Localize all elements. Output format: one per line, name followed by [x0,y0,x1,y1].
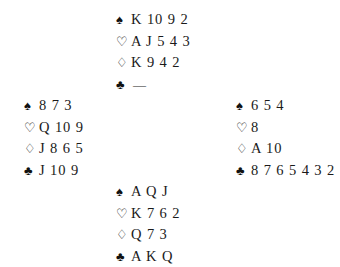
south-clubs-line: ♣ A K Q [116,246,180,267]
east-hearts-cards: 8 [249,117,259,139]
north-diamonds-cards: K 9 4 2 [129,52,180,74]
south-hearts-line: ♡ K 7 6 2 [116,203,180,225]
east-diamonds-line: ♢ A 10 [236,138,335,160]
south-spades-cards: A Q J [129,181,169,203]
club-icon: ♣ [236,160,249,182]
diamond-icon: ♢ [116,224,129,246]
west-spades-cards: 8 7 3 [37,95,73,117]
east-spades-line: ♠ 6 5 4 [236,95,335,117]
south-clubs-cards: A K Q [129,246,173,267]
club-icon: ♣ [116,246,129,267]
hand-south: ♠ A Q J ♡ K 7 6 2 ♢ Q 7 3 ♣ A K Q [116,181,180,267]
north-spades-cards: K 10 9 2 [129,9,189,31]
north-hearts-cards: A J 5 4 3 [129,31,191,53]
north-diamonds-line: ♢ K 9 4 2 [116,52,191,74]
hand-west: ♠ 8 7 3 ♡ Q 10 9 ♢ J 8 6 5 ♣ J 10 9 [24,95,84,181]
east-hearts-line: ♡ 8 [236,117,335,139]
diamond-icon: ♢ [116,52,129,74]
west-spades-line: ♠ 8 7 3 [24,95,84,117]
club-icon: ♣ [24,160,37,182]
east-clubs-line: ♣ 8 7 6 5 4 3 2 [236,160,335,182]
west-hearts-cards: Q 10 9 [37,117,84,139]
north-spades-line: ♠ K 10 9 2 [116,9,191,31]
diamond-icon: ♢ [24,138,37,160]
east-spades-cards: 6 5 4 [249,95,285,117]
west-diamonds-cards: J 8 6 5 [37,138,84,160]
west-clubs-cards: J 10 9 [37,160,79,182]
west-clubs-line: ♣ J 10 9 [24,160,84,182]
south-hearts-cards: K 7 6 2 [129,203,180,225]
heart-icon: ♡ [24,117,37,139]
south-diamonds-line: ♢ Q 7 3 [116,224,180,246]
heart-icon: ♡ [116,31,129,53]
east-diamonds-cards: A 10 [249,138,282,160]
hand-north: ♠ K 10 9 2 ♡ A J 5 4 3 ♢ K 9 4 2 ♣ — [116,9,191,95]
west-hearts-line: ♡ Q 10 9 [24,117,84,139]
north-clubs-line: ♣ — [116,74,191,96]
spade-icon: ♠ [116,181,129,203]
club-icon: ♣ [116,74,129,96]
spade-icon: ♠ [116,9,129,31]
north-clubs-cards: — [129,74,146,96]
heart-icon: ♡ [236,117,249,139]
south-spades-line: ♠ A Q J [116,181,180,203]
diamond-icon: ♢ [236,138,249,160]
south-diamonds-cards: Q 7 3 [129,224,168,246]
spade-icon: ♠ [24,95,37,117]
heart-icon: ♡ [116,203,129,225]
bridge-deal-diagram: ♠ K 10 9 2 ♡ A J 5 4 3 ♢ K 9 4 2 ♣ — ♠ 8… [0,0,340,267]
north-hearts-line: ♡ A J 5 4 3 [116,31,191,53]
hand-east: ♠ 6 5 4 ♡ 8 ♢ A 10 ♣ 8 7 6 5 4 3 2 [236,95,335,181]
spade-icon: ♠ [236,95,249,117]
west-diamonds-line: ♢ J 8 6 5 [24,138,84,160]
east-clubs-cards: 8 7 6 5 4 3 2 [249,160,335,182]
